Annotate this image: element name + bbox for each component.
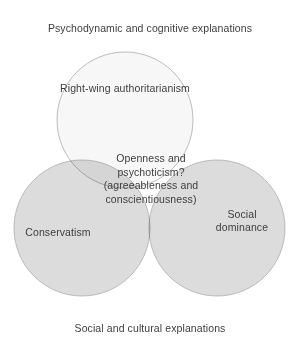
venn-intersection-line-1: Openness and bbox=[90, 152, 212, 166]
venn-label-social-dominance-line-1: Social bbox=[202, 208, 282, 221]
outer-label-bottom: Social and cultural explanations bbox=[0, 322, 300, 335]
venn-diagram-figure: Psychodynamic and cognitive explanations… bbox=[0, 0, 300, 354]
venn-intersection-line-4: conscientiousness) bbox=[90, 193, 212, 207]
venn-label-social-dominance: Social dominance bbox=[202, 208, 282, 234]
venn-intersection-line-2: psychoticism? bbox=[90, 166, 212, 180]
venn-intersection-label: Openness and psychoticism? (agreeablenes… bbox=[90, 152, 212, 206]
venn-label-social-dominance-line-2: dominance bbox=[202, 221, 282, 234]
venn-intersection-line-3: (agreeableness and bbox=[90, 179, 212, 193]
venn-label-right-wing-authoritarianism: Right-wing authoritarianism bbox=[60, 82, 190, 95]
venn-label-conservatism: Conservatism bbox=[8, 226, 108, 239]
